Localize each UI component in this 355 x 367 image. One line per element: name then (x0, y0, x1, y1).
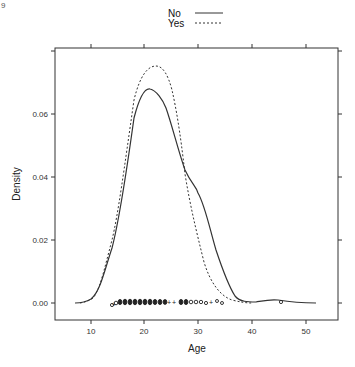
svg-text:+: + (209, 299, 213, 306)
corner-label: 9 (1, 1, 6, 10)
series-no-curve (75, 89, 316, 303)
svg-text:40: 40 (248, 327, 257, 336)
x-tick-labels: 10 20 30 40 50 (87, 327, 311, 336)
legend: No Yes (168, 8, 223, 29)
x-axis-title: Age (188, 343, 206, 354)
density-chart: 9 No Yes 10 20 30 40 50 Age (0, 0, 355, 367)
legend-label-yes: Yes (168, 18, 184, 29)
svg-text:30: 30 (194, 327, 203, 336)
svg-text:+: + (172, 299, 176, 306)
svg-text:0.00: 0.00 (32, 299, 48, 308)
y-axis-title: Density (11, 167, 22, 200)
svg-text:0.02: 0.02 (32, 236, 48, 245)
svg-text:20: 20 (140, 327, 149, 336)
rug-points: + + + + (110, 299, 282, 308)
svg-text:0.04: 0.04 (32, 173, 48, 182)
y-axis (51, 51, 342, 303)
svg-text:10: 10 (87, 327, 96, 336)
svg-text:0.06: 0.06 (32, 110, 48, 119)
svg-text:+: + (167, 299, 171, 306)
x-axis (91, 44, 306, 324)
svg-text:50: 50 (302, 327, 311, 336)
plot-area (55, 48, 338, 320)
y-tick-labels: 0.00 0.02 0.04 0.06 (32, 110, 48, 308)
